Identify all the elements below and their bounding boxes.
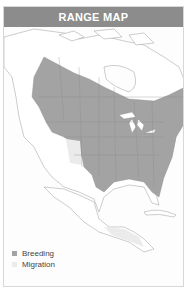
range-map-card: RANGE MAP (3, 6, 184, 287)
north-america-map (4, 27, 184, 257)
legend-label: Breeding (22, 249, 54, 258)
map-legend: Breeding Migration (12, 248, 55, 270)
migration-swatch (12, 262, 17, 267)
legend-item-migration: Migration (12, 259, 55, 270)
range-map-header: RANGE MAP (4, 7, 183, 27)
range-map-title: RANGE MAP (59, 11, 129, 23)
legend-item-breeding: Breeding (12, 248, 55, 259)
breeding-swatch (12, 251, 17, 256)
legend-label: Migration (22, 260, 55, 269)
